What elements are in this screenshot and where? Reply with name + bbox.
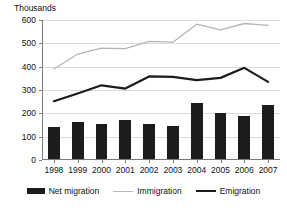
y-axis-tick — [39, 137, 42, 138]
legend-item: Net migration — [27, 186, 100, 196]
x-axis-tick — [244, 160, 245, 163]
y-axis-unit-label: Thousands — [14, 3, 56, 14]
x-axis-tick — [173, 160, 174, 163]
plot-area: 0100200300400500600 19981999200020012002… — [42, 20, 280, 160]
plot-frame — [42, 20, 280, 160]
x-axis-tick — [149, 160, 150, 163]
x-axis-tick-label: 2002 — [140, 165, 159, 175]
y-axis-tick — [39, 90, 42, 91]
y-axis-tick-label: 300 — [22, 86, 36, 95]
legend-bar-swatch-icon — [27, 188, 45, 194]
legend-item: Emigration — [196, 186, 261, 196]
x-axis-tick-label: 2001 — [116, 165, 135, 175]
legend-item-label: Immigration — [137, 186, 181, 196]
y-axis-tick-label: 100 — [22, 132, 36, 141]
y-axis-tick-label: 400 — [22, 62, 36, 71]
y-axis-tick-label: 500 — [22, 39, 36, 48]
x-axis-tick — [221, 160, 222, 163]
legend-line-swatch-icon — [196, 190, 216, 192]
x-axis-tick-label: 2003 — [163, 165, 182, 175]
x-axis-tick — [54, 160, 55, 163]
x-axis-tick-label: 2007 — [259, 165, 278, 175]
y-axis-tick-label: 0 — [31, 156, 36, 165]
x-axis-tick-label: 1998 — [44, 165, 63, 175]
chart-legend: Net migrationImmigrationEmigration — [0, 186, 287, 196]
x-axis-tick — [268, 160, 269, 163]
legend-item-label: Emigration — [220, 186, 261, 196]
x-axis-tick — [197, 160, 198, 163]
x-axis-tick — [125, 160, 126, 163]
y-axis-tick — [39, 20, 42, 21]
legend-line-swatch-icon — [113, 191, 133, 192]
y-axis-tick — [39, 160, 42, 161]
migration-chart: Thousands 0100200300400500600 1998199920… — [0, 0, 287, 210]
y-axis-tick-label: 200 — [22, 109, 36, 118]
x-axis-tick-label: 2004 — [187, 165, 206, 175]
x-axis-tick-label: 2005 — [211, 165, 230, 175]
x-axis-tick — [102, 160, 103, 163]
x-axis-tick-label: 1999 — [68, 165, 87, 175]
y-axis-tick — [39, 43, 42, 44]
x-axis-tick-label: 2000 — [92, 165, 111, 175]
y-axis-tick — [39, 113, 42, 114]
legend-item-label: Net migration — [49, 186, 100, 196]
legend-item: Immigration — [113, 186, 181, 196]
x-axis-tick-label: 2006 — [235, 165, 254, 175]
x-axis-tick — [78, 160, 79, 163]
y-axis-tick — [39, 67, 42, 68]
y-axis-tick-label: 600 — [22, 16, 36, 25]
